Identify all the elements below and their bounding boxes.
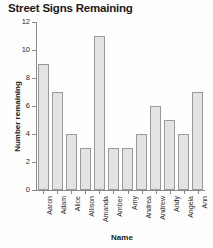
bar [178,134,189,190]
y-tick-mark [32,190,36,191]
x-tick-label: Allison [88,196,95,217]
bar [94,36,105,190]
x-tick-mark [198,191,199,194]
bar [80,148,91,190]
x-tick-mark [184,191,185,194]
x-tick-mark [142,191,143,194]
x-tick-label: Amanda [102,196,109,222]
x-tick-mark [128,191,129,194]
x-tick-label: Andrew [159,196,166,220]
bar [150,106,161,190]
y-tick-label: 8 [26,74,30,82]
x-tick-mark [170,191,171,194]
plot-area [36,22,205,190]
bar [108,148,119,190]
x-tick-label: Andy [173,196,180,212]
bar [52,92,63,190]
y-tick-label: 6 [26,102,30,110]
x-tick-label: Alice [74,196,81,211]
x-tick-mark [99,191,100,194]
y-tick-label: 4 [26,130,30,138]
bar-chart: Street Signs Remaining Number remaining … [0,0,213,248]
x-axis-title: Name [36,233,208,242]
y-tick-label: 2 [26,158,30,166]
x-tick-mark [156,191,157,194]
x-tick-mark [71,191,72,194]
x-tick-label: Aaron [46,196,53,215]
y-axis-ticks: 024681012 [0,0,36,191]
x-tick-label: Amy [131,196,138,210]
bar [122,148,133,190]
x-tick-mark [85,191,86,194]
bar [38,64,49,190]
x-tick-label: Amber [116,196,123,217]
x-tick-label: Adam [60,196,67,214]
bar [66,134,77,190]
x-tick-mark [113,191,114,194]
chart-title: Street Signs Remaining [8,2,208,14]
y-tick-label: 12 [22,18,30,26]
bar [192,92,203,190]
x-tick-label: Angela [187,196,194,218]
bar [136,134,147,190]
x-tick-label: Andrea [145,196,152,219]
x-axis-line [36,190,205,191]
x-tick-mark [43,191,44,194]
x-tick-mark [57,191,58,194]
y-tick-label: 10 [22,46,30,54]
bar [164,120,175,190]
x-tick-label: Ann [201,196,208,208]
y-tick-label: 0 [26,186,30,194]
